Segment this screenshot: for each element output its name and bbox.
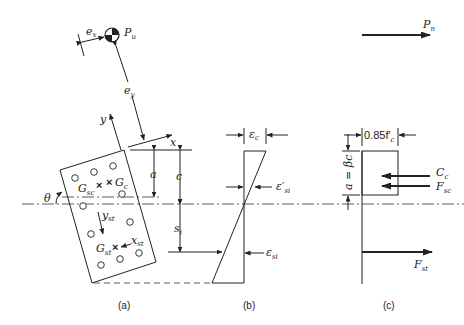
theta-arc [56,192,62,204]
label-a: a [150,168,157,181]
gst-centroid-mark: × [112,241,118,253]
panel-b: εc ε′si εsi (b) [212,128,290,311]
label-xst: xst [131,234,144,248]
strain-diagram [212,151,266,283]
label-c: c [176,170,182,183]
label-eps-si-prime: ε′si [276,180,290,195]
load-point-icon [105,28,119,42]
label-cc: Cc [436,166,448,181]
label-ey: ey [124,84,136,99]
label-gsc: Gsc [78,182,94,197]
label-gc: Gc [115,176,128,191]
label-ex: ex [86,25,97,39]
gc-centroid-mark: × [106,176,112,188]
interaction-diagram: Pu ex ey y x θ [0,0,464,325]
label-085fc: 0.85f′c [364,129,395,144]
label-yst: yst [101,209,115,223]
ex-reference-line [78,34,84,56]
label-eps-c: εc [249,128,259,142]
label-block-depth: a = βc [342,155,355,190]
ey-dimension-upper [116,46,128,82]
stress-block [362,151,398,195]
ey-dimension-lower [132,96,144,140]
label-y-axis: y [99,113,107,126]
x-axis-arrow [128,135,172,147]
label-fst: Fst [413,258,428,273]
label-pn: Pn [422,18,435,33]
label-pu: Pu [123,26,136,41]
label-gst: Gst [96,242,111,257]
panel-c: Pn 0.85f′c a = βc Cc Fsc Fst (c) [342,18,451,311]
caption-a: (a) [118,300,130,311]
label-eps-si: εsi [266,246,278,261]
y-axis-arrow [110,114,121,150]
label-si: si [174,222,182,237]
gsc-centroid-mark: × [96,179,102,191]
label-x-axis: x [170,136,177,149]
caption-b: (b) [243,300,255,311]
caption-c: (c) [383,300,395,311]
label-fsc: Fsc [435,180,451,195]
label-theta: θ [44,192,51,205]
xst-arrow [121,244,131,247]
